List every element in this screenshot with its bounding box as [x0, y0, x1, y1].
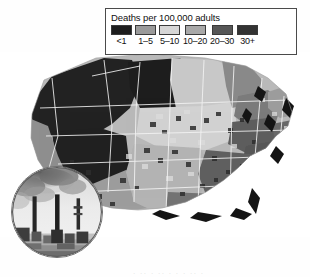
legend-item-30plus: 30+	[237, 25, 258, 47]
smokestack-photo-inset	[11, 166, 103, 258]
bottom-cutoff-text: · ·· · ·· · · · ·· ·	[0, 270, 310, 277]
bottom-cutoff-label: · ·· · ·· · · · ·· ·	[133, 270, 310, 277]
legend-swatch-1-5	[135, 25, 156, 35]
legend-label-10-20: 10–20	[183, 36, 207, 47]
legend-swatch-lt1	[111, 25, 132, 35]
smokestack-photo	[12, 167, 102, 257]
legend-label-lt1: <1	[117, 36, 127, 47]
legend-item-1-5: 1–5	[135, 25, 156, 47]
legend-item-20-30: 20–30	[210, 25, 234, 47]
legend-item-5-10: 5–10	[159, 25, 180, 47]
legend-swatch-5-10	[159, 25, 180, 35]
legend-item-lt1: <1	[111, 25, 132, 47]
legend-label-1-5: 1–5	[138, 36, 152, 47]
legend: Deaths per 100,000 adults <1 1–5 5–10 10…	[105, 8, 297, 55]
legend-label-30plus: 30+	[240, 36, 255, 47]
legend-swatch-10-20	[185, 25, 206, 35]
legend-item-10-20: 10–20	[183, 25, 207, 47]
figure-root: Deaths per 100,000 adults <1 1–5 5–10 10…	[0, 0, 310, 277]
legend-items: <1 1–5 5–10 10–20 20–30 30+	[111, 25, 291, 47]
legend-swatch-30plus	[237, 25, 258, 35]
legend-swatch-20-30	[212, 25, 233, 35]
legend-label-5-10: 5–10	[160, 36, 179, 47]
legend-title: Deaths per 100,000 adults	[111, 12, 291, 23]
legend-label-20-30: 20–30	[210, 36, 234, 47]
